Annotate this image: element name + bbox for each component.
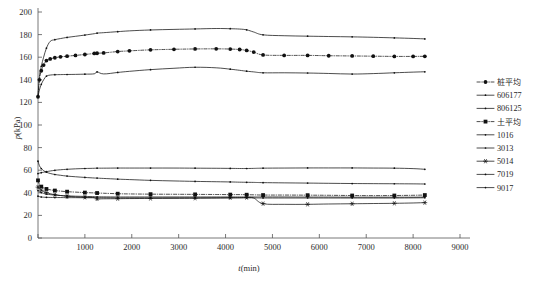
- series-marker: [229, 28, 231, 30]
- legend-marker-sample: [485, 134, 487, 136]
- legend-marker-sample: [485, 147, 487, 149]
- x-tick-label: 5000: [264, 242, 281, 252]
- series-marker: [229, 197, 231, 199]
- series-marker: [424, 183, 426, 185]
- x-tick-label: 7000: [358, 242, 375, 252]
- series-marker: [245, 193, 249, 197]
- legend-label: 7019: [497, 170, 513, 179]
- series-marker: [394, 197, 396, 199]
- series-marker: [36, 178, 40, 182]
- series-marker: [46, 47, 48, 49]
- series-marker: [46, 196, 48, 198]
- series-marker: [350, 54, 354, 58]
- legend-label: 5014: [497, 157, 513, 166]
- series-marker: [117, 167, 119, 169]
- series-marker: [392, 55, 396, 59]
- series-marker: [194, 66, 196, 68]
- series-marker: [40, 172, 42, 174]
- series-marker: [150, 29, 152, 31]
- y-tick-label: 180: [19, 30, 32, 40]
- series-marker: [66, 195, 68, 197]
- legend-marker-sample: [485, 187, 487, 189]
- series-marker: [54, 74, 56, 76]
- series-marker: [307, 197, 309, 199]
- series-marker: [194, 28, 196, 30]
- series-marker: [307, 167, 309, 169]
- series-marker: [371, 54, 375, 58]
- series-marker: [40, 196, 42, 198]
- x-tick-label: 9000: [452, 242, 469, 252]
- series-marker: [117, 72, 119, 74]
- series-marker: [262, 167, 264, 169]
- series-marker: [66, 168, 68, 170]
- series-marker: [96, 167, 98, 169]
- series-marker: [37, 173, 39, 175]
- series-marker: [246, 29, 248, 31]
- series-marker: [262, 72, 264, 74]
- series-marker: [54, 39, 56, 41]
- series-marker: [95, 191, 99, 195]
- series-marker: [282, 53, 286, 57]
- series-marker: [228, 47, 232, 51]
- x-axis-title: t(min): [238, 263, 259, 273]
- legend-label: 土平均: [497, 117, 521, 127]
- y-tick-label: 140: [19, 75, 32, 85]
- series-marker: [96, 197, 98, 199]
- series-marker: [116, 192, 120, 196]
- series-marker: [45, 187, 49, 191]
- series-marker: [150, 180, 152, 182]
- legend-label: 桩平均: [497, 77, 521, 87]
- series-marker: [46, 193, 48, 195]
- series-marker: [53, 189, 57, 193]
- series-marker: [65, 54, 69, 58]
- series-marker: [66, 74, 68, 76]
- series-marker: [54, 174, 56, 176]
- series-marker: [54, 197, 56, 199]
- legend-marker-sample: [484, 120, 488, 124]
- series-marker: [424, 38, 426, 40]
- series-marker: [424, 168, 426, 170]
- series-marker: [150, 167, 152, 169]
- legend-label: 806125: [497, 104, 522, 113]
- series-marker: [128, 49, 132, 53]
- series-marker: [193, 47, 197, 51]
- series-marker: [262, 182, 264, 184]
- series-marker: [96, 32, 98, 34]
- series-marker: [46, 171, 48, 173]
- series-marker: [246, 181, 248, 183]
- series-marker: [150, 197, 152, 199]
- series-marker: [307, 72, 309, 74]
- x-tick-label: 4000: [217, 242, 234, 252]
- y-axis-title: p(kPa): [12, 117, 22, 141]
- series-marker: [46, 75, 48, 77]
- series-marker: [40, 192, 42, 194]
- series-marker: [117, 178, 119, 180]
- chart-figure: 0204060801001201401601802001000200030004…: [0, 0, 539, 285]
- series-marker: [394, 72, 396, 74]
- y-tick-label: 200: [19, 7, 32, 17]
- series-marker: [84, 168, 86, 170]
- series-marker: [40, 65, 42, 67]
- y-tick-label: 60: [24, 165, 33, 175]
- legend-label: 606177: [497, 91, 522, 100]
- series-marker: [150, 69, 152, 71]
- legend-label: 9017: [497, 184, 513, 193]
- y-tick-label: 80: [24, 143, 33, 153]
- series-marker: [40, 83, 42, 85]
- y-tick-label: 160: [19, 52, 32, 62]
- series-marker: [238, 48, 242, 52]
- series-marker: [37, 160, 39, 162]
- series-marker: [246, 168, 248, 170]
- series-marker: [229, 68, 231, 70]
- series-marker: [262, 34, 264, 36]
- series-marker: [246, 197, 248, 199]
- series-marker: [424, 197, 426, 199]
- series-marker: [84, 197, 86, 199]
- series-marker: [65, 190, 69, 194]
- series-marker: [117, 31, 119, 33]
- x-tick-label: 3000: [170, 242, 187, 252]
- series-marker: [83, 191, 87, 195]
- x-tick-label: 1000: [76, 242, 93, 252]
- legend-marker-sample: [485, 174, 487, 176]
- series-marker: [351, 197, 353, 199]
